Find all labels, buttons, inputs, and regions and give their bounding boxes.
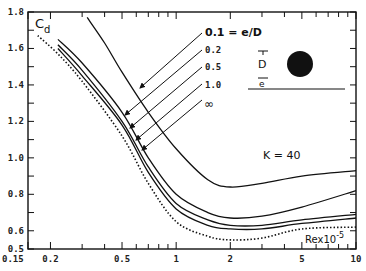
y-tick-label: 1.4 (8, 80, 25, 90)
ed-label-1.0: 1.0 (205, 80, 221, 90)
ed-label-0.2: 0.2 (205, 45, 221, 55)
y-tick-label: 1.6 (8, 43, 24, 53)
drag-coefficient-chart: 0.150.20.5125100.50.60.81.01.21.41.61.8 … (0, 0, 366, 271)
arrow (130, 67, 202, 128)
x-tick-label: 10 (351, 254, 362, 264)
diameter-label: D (258, 58, 266, 71)
k-annotation: K = 40 (263, 149, 300, 162)
y-tick-label: 1.8 (8, 7, 24, 17)
cylinder-icon (287, 51, 313, 77)
arrow (142, 100, 202, 150)
x-tick-label: 0.2 (42, 254, 58, 264)
y-tick-label: 1.2 (8, 116, 24, 126)
y-tick-label: 1.0 (8, 153, 24, 163)
y-axis-label: Cd (35, 16, 50, 35)
x-tick-label: 1 (173, 254, 178, 264)
y-tick-label: 0.5 (8, 244, 24, 254)
x-tick-label: 2 (228, 254, 233, 264)
label-arrows (125, 33, 202, 150)
curves (38, 17, 356, 240)
cylinder-diagram: D e (248, 51, 345, 89)
y-tick-label: 0.8 (8, 189, 24, 199)
x-tick-label: 5 (299, 254, 304, 264)
arrow (136, 84, 202, 140)
ed-label-0.1: 0.1 = e/D (205, 26, 262, 39)
curve-e-d-0-1 (87, 17, 356, 187)
x-tick-label: 0.5 (114, 254, 130, 264)
curve-e-d-1-0 (58, 48, 356, 229)
y-tick-label: 0.6 (8, 226, 24, 236)
arrow (140, 33, 202, 88)
gap-label: e (259, 79, 265, 89)
ed-label-inf: ∞ (204, 97, 214, 111)
x-axis-label: Rex10-5 (305, 231, 344, 245)
x-tick-label: 0.15 (2, 254, 24, 264)
axis-ticks: 0.150.20.5125100.50.60.81.01.21.41.61.8 (2, 7, 361, 264)
ed-label-0.5: 0.5 (205, 62, 221, 72)
arrow (125, 50, 202, 115)
